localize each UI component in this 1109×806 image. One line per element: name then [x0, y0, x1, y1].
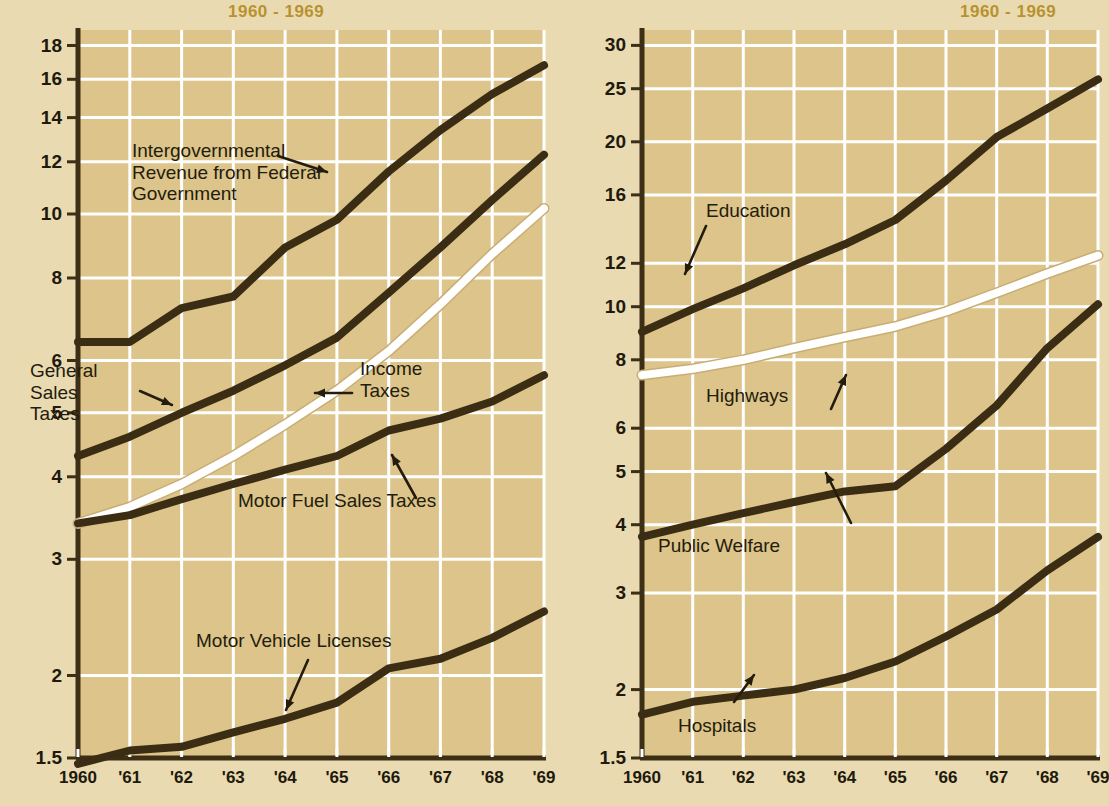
right-chart-panel: 1.52345681012162025301960'61'62'63'64'65…	[566, 30, 1106, 768]
y-axis-tick-label: 18	[41, 35, 62, 57]
y-axis-tick-label: 10	[41, 203, 62, 225]
annotation-education: Education	[706, 200, 791, 222]
y-axis-tick-label: 8	[615, 349, 626, 371]
y-axis-tick-label: 2	[615, 679, 626, 701]
annotation-intergovernmental: Intergovernmental Revenue from Federal G…	[132, 140, 321, 205]
annotation-motor-fuel: Motor Fuel Sales Taxes	[238, 490, 436, 512]
y-axis-tick-label: 8	[51, 267, 62, 289]
y-axis-tick-label: 10	[605, 296, 626, 318]
y-axis-tick-label: 20	[605, 131, 626, 153]
x-axis-tick-label: '65	[325, 768, 348, 788]
x-axis-tick-label: '67	[429, 768, 452, 788]
left-chart-title: 1960 - 1969	[228, 2, 324, 22]
y-axis-tick-label: 1.5	[600, 747, 626, 769]
x-axis-tick-label: '66	[377, 768, 400, 788]
x-axis-tick-label: '61	[118, 768, 141, 788]
x-axis-tick-label: '63	[222, 768, 245, 788]
y-axis-tick-label: 3	[51, 548, 62, 570]
y-axis-tick-label: 6	[615, 417, 626, 439]
x-axis-tick-label: '64	[833, 768, 856, 788]
x-axis-tick-label: '69	[1087, 768, 1109, 788]
y-axis-tick-label: 4	[615, 514, 626, 536]
x-axis-tick-label: 1960	[623, 768, 661, 788]
left-chart-labels: 1.523456810121416181960'61'62'63'64'65'6…	[0, 30, 552, 768]
x-axis-tick-label: 1960	[59, 768, 97, 788]
x-axis-tick-label: '67	[985, 768, 1008, 788]
x-axis-tick-label: '66	[935, 768, 958, 788]
y-axis-tick-label: 3	[615, 582, 626, 604]
y-axis-tick-label: 25	[605, 78, 626, 100]
x-axis-tick-label: '68	[481, 768, 504, 788]
right-chart-title: 1960 - 1969	[960, 2, 1056, 22]
y-axis-tick-label: 12	[41, 151, 62, 173]
y-axis-tick-label: 1.5	[36, 747, 62, 769]
y-axis-tick-label: 16	[41, 68, 62, 90]
y-axis-tick-label: 2	[51, 665, 62, 687]
x-axis-tick-label: '62	[732, 768, 755, 788]
x-axis-tick-label: '63	[783, 768, 806, 788]
annotation-public-welfare: Public Welfare	[658, 535, 780, 557]
y-axis-tick-label: 4	[51, 466, 62, 488]
annotation-highways: Highways	[706, 385, 788, 407]
annotation-motor-vehicle: Motor Vehicle Licenses	[196, 630, 391, 652]
y-axis-tick-label: 12	[605, 252, 626, 274]
x-axis-tick-label: '68	[1036, 768, 1059, 788]
x-axis-tick-label: '64	[274, 768, 297, 788]
right-chart-labels: 1.52345681012162025301960'61'62'63'64'65…	[566, 30, 1106, 768]
x-axis-tick-label: '69	[533, 768, 556, 788]
y-axis-tick-label: 14	[41, 107, 62, 129]
annotation-income-taxes: Income Taxes	[360, 358, 422, 401]
annotation-hospitals: Hospitals	[678, 715, 756, 737]
x-axis-tick-label: '65	[884, 768, 907, 788]
x-axis-tick-label: '61	[681, 768, 704, 788]
y-axis-tick-label: 5	[615, 461, 626, 483]
y-axis-tick-label: 16	[605, 184, 626, 206]
x-axis-tick-label: '62	[170, 768, 193, 788]
y-axis-tick-label: 30	[605, 34, 626, 56]
left-chart-panel: RATIO SCALE (BILLIONS OF DOLLARS) 1.5234…	[0, 30, 552, 768]
annotation-general-sales: General Sales Taxes	[30, 360, 98, 425]
